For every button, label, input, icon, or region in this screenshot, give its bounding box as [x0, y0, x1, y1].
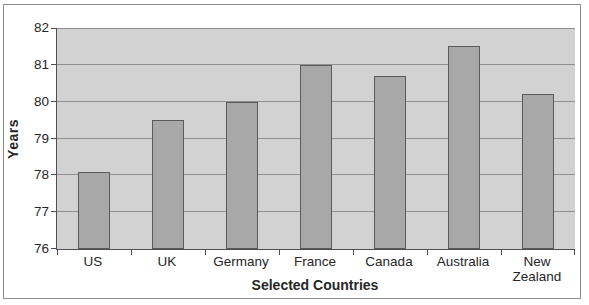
- bar-column: [131, 28, 205, 249]
- bar-uk: [152, 120, 184, 249]
- y-tick-label: 79: [34, 132, 49, 146]
- bar-column: [501, 28, 575, 249]
- plot-area: [56, 28, 575, 250]
- bar-column: [279, 28, 353, 249]
- x-tick-mark: [574, 250, 575, 255]
- y-tick-mark: [51, 64, 56, 65]
- y-tick-label: 81: [34, 58, 49, 72]
- y-tick-label: 76: [34, 242, 49, 256]
- y-tick-mark: [51, 248, 56, 249]
- y-tick-label: 78: [34, 169, 49, 183]
- bar-column: [353, 28, 427, 249]
- y-tick-mark: [51, 138, 56, 139]
- bar-australia: [448, 46, 480, 249]
- x-axis-title: Selected Countries: [56, 277, 574, 293]
- bar-column: [427, 28, 501, 249]
- bar-us: [78, 172, 110, 249]
- y-tick-label: 80: [34, 95, 49, 109]
- bar-canada: [374, 76, 406, 249]
- bar-column: [205, 28, 279, 249]
- y-tick-mark: [51, 174, 56, 175]
- y-axis-tick-labels: 76777879808182: [18, 28, 49, 249]
- y-tick-label: 77: [34, 205, 49, 219]
- bar-new-zealand: [522, 94, 554, 249]
- y-tick-mark: [51, 28, 56, 29]
- bar-column: [57, 28, 131, 249]
- figure-frame: Years 76777879808182 USUKGermanyFranceCa…: [3, 4, 581, 299]
- y-tick-mark: [51, 101, 56, 102]
- figure: Years 76777879808182 USUKGermanyFranceCa…: [0, 0, 589, 305]
- y-tick-mark: [51, 211, 56, 212]
- bar-france: [300, 65, 332, 249]
- bar-germany: [226, 102, 258, 249]
- y-tick-label: 82: [34, 21, 49, 35]
